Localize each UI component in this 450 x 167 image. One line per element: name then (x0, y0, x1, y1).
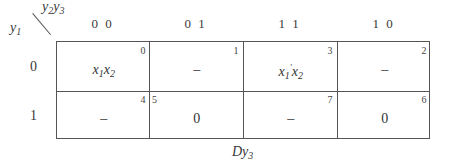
cell-value: x1x2 (57, 62, 151, 79)
cell-index: 6 (422, 94, 427, 105)
cell-value: 0 (338, 111, 432, 127)
cell-index: 4 (141, 94, 146, 105)
cell-index: 1 (234, 45, 239, 56)
cell-index: 0 (141, 45, 146, 56)
row-variable-label: y1 (10, 20, 21, 37)
cell-index: 3 (328, 45, 333, 56)
cell-index: 5 (152, 94, 157, 105)
cell-index: 7 (328, 94, 333, 105)
cell-0: 0 x1x2 (57, 42, 151, 91)
column-header-11: 1 1 (243, 16, 336, 32)
corner-divider (32, 13, 51, 35)
column-header-10: 1 0 (337, 16, 430, 32)
map-caption: Dy3 (232, 144, 253, 161)
cell-value: – (57, 111, 151, 127)
column-variables-label: y2y3 (42, 0, 64, 16)
cell-index: 2 (422, 45, 427, 56)
row-header-0: 0 (30, 59, 37, 75)
cell-value: x1'x2 (244, 62, 338, 81)
row-header-1: 1 (30, 108, 37, 124)
cell-value: – (150, 62, 244, 78)
karnaugh-map-grid: 0 x1x2 1 – 3 x1'x2 2 – 4 – 5 0 7 – 6 0 (56, 41, 430, 139)
column-header-01: 0 1 (149, 16, 242, 32)
cell-value: – (338, 62, 432, 78)
cell-7: 7 – (244, 91, 338, 140)
column-header-00: 0 0 (56, 16, 149, 32)
cell-6: 6 0 (338, 91, 432, 140)
cell-4: 4 – (57, 91, 151, 140)
cell-5: 5 0 (150, 91, 244, 140)
cell-3: 3 x1'x2 (244, 42, 338, 91)
cell-value: 0 (150, 111, 244, 127)
cell-1: 1 – (150, 42, 244, 91)
cell-2: 2 – (338, 42, 432, 91)
cell-value: – (244, 111, 338, 127)
